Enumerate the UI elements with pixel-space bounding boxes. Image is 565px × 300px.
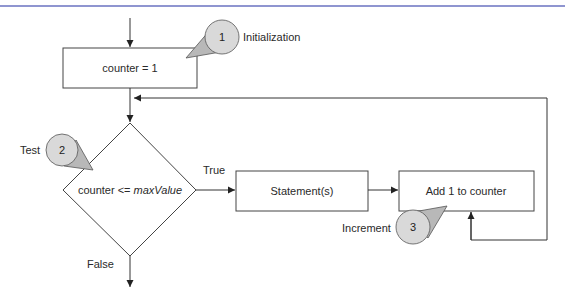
test-condition-text: counter <= — [78, 184, 134, 196]
true-edge-label: True — [203, 164, 225, 176]
init-box-label: counter = 1 — [102, 62, 157, 74]
test-condition-variable: maxValue — [134, 184, 183, 196]
flowchart-svg — [0, 0, 565, 300]
callout-2-icon — [46, 134, 93, 170]
callout-1-number: 1 — [219, 31, 225, 43]
callout-1-icon — [186, 20, 239, 58]
false-edge-label: False — [87, 258, 114, 270]
increment-box-label: Add 1 to counter — [426, 185, 507, 197]
callout-2-number: 2 — [59, 144, 65, 156]
callout-2-label: Test — [20, 144, 40, 156]
callout-3-number: 3 — [410, 221, 416, 233]
statement-box-label: Statement(s) — [271, 185, 334, 197]
callout-3-icon — [396, 206, 447, 244]
callout-3-label: Increment — [342, 222, 391, 234]
test-diamond-label: counter <= maxValue — [78, 184, 182, 196]
flowchart-canvas: counter = 1 counter <= maxValue Statemen… — [0, 0, 565, 300]
callout-1-label: Initialization — [243, 31, 300, 43]
loop-back-line — [134, 98, 547, 240]
